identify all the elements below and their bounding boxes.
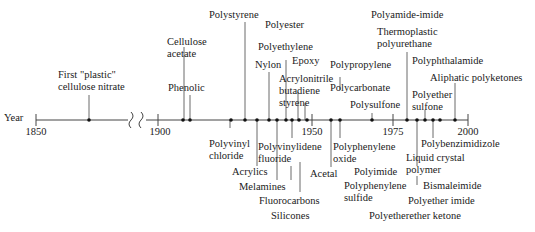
event-label-polyether-imide: Polyether imide <box>408 195 475 207</box>
tick-label-2000: 2000 <box>458 126 479 138</box>
tick-label-1975: 1975 <box>383 126 404 138</box>
tick-label-1900: 1900 <box>150 126 171 138</box>
event-label-bismaleimide: Bismaleimide <box>423 180 481 192</box>
event-label-polypropylene: Polypropylene <box>330 59 391 71</box>
label-line: Polyvinylidene <box>258 141 322 153</box>
event-label-polyphenylene-sulfide: Polyphenylene sulfide <box>344 180 406 204</box>
event-label-phenolic: Phenolic <box>168 82 205 94</box>
label-line: Polyvinyl <box>209 138 250 150</box>
event-label-cellulose-acetate: Cellulose acetate <box>167 36 207 60</box>
event-label-abs: Acrylonitrile butadiene styrene <box>279 73 333 109</box>
event-label-polystyrene: Polystyrene <box>209 9 259 21</box>
event-label-liquid-crystal-polymer: Liquid crystal polymer <box>406 152 465 176</box>
axis-break-icon <box>129 112 133 128</box>
label-line: cellulose nitrate <box>58 81 125 93</box>
label-line: acetate <box>167 48 207 60</box>
label-line: Polyether <box>412 89 452 101</box>
axis-label: Year <box>4 112 23 124</box>
event-label-polyester: Polyester <box>265 19 304 31</box>
event-label-polyvinylidene-fluoride: Polyvinylidene fluoride <box>258 141 322 165</box>
tick-label-1950: 1950 <box>302 126 323 138</box>
label-line: sulfide <box>344 192 406 204</box>
event-label-polyimide: Polyimide <box>354 166 397 178</box>
tick-label-1850: 1850 <box>26 126 47 138</box>
event-label-polyamide-imide: Polyamide-imide <box>371 9 443 21</box>
event-label-silicones: Silicones <box>271 210 310 222</box>
event-label-polyvinyl-chloride: Polyvinyl chloride <box>209 138 250 162</box>
event-label-polyethylene: Polyethylene <box>258 41 313 53</box>
event-label-polycarbonate: Polycarbonate <box>330 82 390 94</box>
label-line: First "plastic" <box>58 69 125 81</box>
event-label-polyphenylene-oxide: Polyphenylene oxide <box>333 141 395 165</box>
label-line: fluoride <box>258 153 322 165</box>
label-line: oxide <box>333 153 395 165</box>
axis-break-icon <box>139 112 143 128</box>
label-line: styrene <box>279 97 333 109</box>
label-line: Acrylonitrile <box>279 73 333 85</box>
event-label-epoxy: Epoxy <box>292 55 319 67</box>
event-label-polyphthalamide: Polyphthalamide <box>412 55 483 67</box>
event-label-aliphatic-polyketones: Aliphatic polyketones <box>430 72 522 84</box>
event-label-polyether-sulfone: Polyether sulfone <box>412 89 452 113</box>
label-line: Thermoplastic <box>377 26 438 38</box>
event-label-peek: Polyetherether ketone <box>369 210 461 222</box>
event-label-polysulfone: Polysulfone <box>350 99 400 111</box>
label-line: butadiene <box>279 85 333 97</box>
label-line: Polyphenylene <box>333 141 395 153</box>
label-line: polymer <box>406 164 465 176</box>
label-line: sulfone <box>412 101 452 113</box>
label-line: polyurethane <box>377 38 438 50</box>
label-line: chloride <box>209 150 250 162</box>
event-label-acetal: Acetal <box>310 168 337 180</box>
event-label-acrylics: Acrylics <box>232 166 268 178</box>
label-line: Cellulose <box>167 36 207 48</box>
event-label-fluorocarbons: Fluorocarbons <box>259 195 320 207</box>
event-label-nylon: Nylon <box>255 59 281 71</box>
label-line: Liquid crystal <box>406 152 465 164</box>
event-label-cellulose-nitrate: First "plastic" cellulose nitrate <box>58 69 125 93</box>
label-line: Polyphenylene <box>344 180 406 192</box>
event-label-thermoplastic-polyurethane: Thermoplastic polyurethane <box>377 26 438 50</box>
event-label-polybenzimidizole: Polybenzimidizole <box>421 138 500 150</box>
event-label-melamines: Melamines <box>239 181 286 193</box>
